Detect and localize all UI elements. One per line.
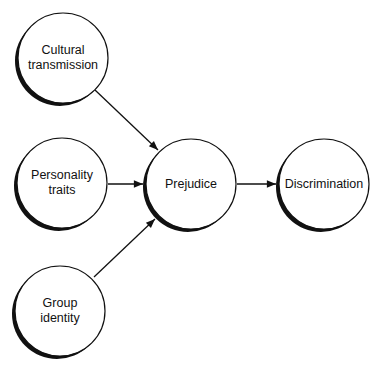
- node-label-line: traits: [31, 183, 93, 198]
- node-label-line: Discrimination: [285, 177, 364, 192]
- node-label-line: Personality: [31, 168, 93, 183]
- node-discrimination: Discrimination: [278, 138, 370, 230]
- node-label-line: Cultural: [28, 43, 98, 58]
- node-group-identity: Group identity: [14, 265, 106, 357]
- node-label-line: transmission: [28, 58, 98, 73]
- node-cultural-transmission: Cultural transmission: [17, 12, 109, 104]
- node-personality-traits: Personality traits: [16, 137, 108, 229]
- node-label-line: Group: [40, 296, 80, 311]
- node-label-line: Prejudice: [165, 177, 217, 192]
- node-label-line: identity: [40, 311, 80, 326]
- node-prejudice: Prejudice: [145, 138, 237, 230]
